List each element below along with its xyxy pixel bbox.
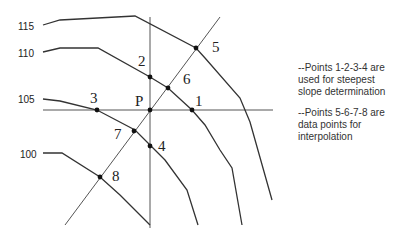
point-P-label: P bbox=[135, 93, 143, 109]
point-3-marker bbox=[95, 108, 100, 113]
contour-100 bbox=[43, 153, 150, 225]
contour-lines: 115110105100 bbox=[18, 16, 272, 225]
point-P-marker bbox=[148, 108, 153, 113]
data-points: 526P13748 bbox=[90, 39, 220, 184]
contour-label-105: 105 bbox=[18, 94, 35, 105]
point-1-label: 1 bbox=[195, 93, 203, 109]
contour-110 bbox=[43, 48, 242, 225]
point-2-marker bbox=[148, 75, 153, 80]
point-5-label: 5 bbox=[212, 39, 220, 55]
point-8-label: 8 bbox=[112, 168, 120, 184]
point-7-marker bbox=[132, 129, 137, 134]
note-steepest-slope: --Points 1-2-3-4 are used for steepest s… bbox=[298, 62, 397, 98]
point-6-marker bbox=[166, 86, 171, 91]
contour-115 bbox=[43, 16, 272, 200]
contour-label-100: 100 bbox=[20, 149, 37, 160]
contour-label-110: 110 bbox=[18, 48, 34, 59]
point-5-marker bbox=[194, 46, 199, 51]
note-interpolation: --Points 5-6-7-8 are data points for int… bbox=[298, 107, 397, 143]
point-2-label: 2 bbox=[138, 53, 146, 69]
point-4-label: 4 bbox=[158, 138, 166, 154]
contour-label-115: 115 bbox=[18, 21, 34, 32]
point-8-marker bbox=[98, 175, 103, 180]
contour-105 bbox=[43, 99, 198, 225]
point-3-label: 3 bbox=[90, 90, 98, 106]
point-4-marker bbox=[148, 144, 153, 149]
point-1-marker bbox=[190, 108, 195, 113]
point-6-label: 6 bbox=[183, 71, 191, 87]
point-7-label: 7 bbox=[114, 126, 122, 142]
